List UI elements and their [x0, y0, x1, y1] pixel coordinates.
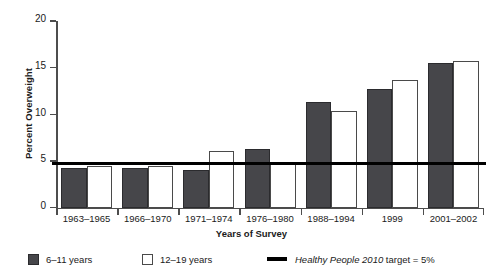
y-axis-title: Percent Overweight — [23, 34, 34, 194]
x-axis-tick-label: 1971–1974 — [178, 213, 239, 224]
y-axis-tick: 20 — [50, 20, 56, 22]
y-axis-tick: 15 — [50, 67, 56, 69]
x-axis-tick-label: 1963–1965 — [56, 213, 117, 224]
healthy-people-2010-target-line — [52, 162, 486, 165]
legend-label-6-11-years: 6–11 years — [46, 254, 92, 265]
bar-age-6-11 — [183, 170, 209, 207]
x-axis-tick-label: 2001–2002 — [423, 213, 484, 224]
legend-item-healthy-people-target: Healthy People 2010 target = 5% — [267, 251, 435, 267]
bar-age-12-19 — [87, 166, 113, 207]
legend-label-rest-part: target = 5% — [383, 254, 435, 265]
legend-swatch-line-icon — [267, 257, 287, 260]
x-axis-tick-label: 1988–1994 — [301, 213, 362, 224]
bar-age-6-11 — [306, 102, 332, 207]
y-axis-tick-label: 5 — [40, 153, 46, 164]
plot-area: 05101520 — [56, 21, 484, 209]
bar-age-6-11 — [428, 63, 454, 208]
legend-swatch-filled-square-icon — [28, 254, 39, 265]
y-axis-tick-label: 20 — [35, 13, 46, 24]
bar-age-6-11 — [122, 168, 148, 207]
x-axis-tick-label: 1966–1970 — [117, 213, 178, 224]
y-axis-line — [56, 21, 58, 209]
bar-age-6-11 — [61, 168, 87, 207]
legend-swatch-outlined-square-icon — [142, 254, 153, 265]
y-axis-tick-label: 10 — [35, 107, 46, 118]
y-axis-tick-label: 15 — [35, 60, 46, 71]
legend-label-12-19-years: 12–19 years — [160, 254, 212, 265]
chart-legend: 6–11 years 12–19 years Healthy People 20… — [28, 251, 488, 269]
chart-figure: Percent Overweight 05101520 Years of Sur… — [0, 0, 503, 272]
bar-age-12-19 — [331, 111, 357, 207]
bar-age-6-11 — [245, 149, 271, 208]
x-axis-tick-label: 1999 — [362, 213, 423, 224]
x-axis-line — [56, 208, 484, 210]
bar-age-12-19 — [392, 80, 418, 208]
y-axis-tick-label: 0 — [40, 200, 46, 211]
x-axis-title: Years of Survey — [0, 228, 503, 239]
x-axis-tick-label: 1976–1980 — [239, 213, 300, 224]
y-axis-tick: 10 — [50, 114, 56, 116]
legend-item-12-19-years: 12–19 years — [142, 251, 212, 267]
bar-age-12-19 — [453, 61, 479, 207]
bar-age-12-19 — [148, 166, 174, 207]
legend-label-healthy-people-target: Healthy People 2010 target = 5% — [295, 254, 435, 265]
bar-age-6-11 — [367, 89, 393, 207]
bar-age-12-19 — [209, 151, 235, 208]
bar-age-12-19 — [270, 163, 296, 208]
legend-item-6-11-years: 6–11 years — [28, 251, 92, 267]
legend-label-italic-part: Healthy People 2010 — [295, 254, 383, 265]
